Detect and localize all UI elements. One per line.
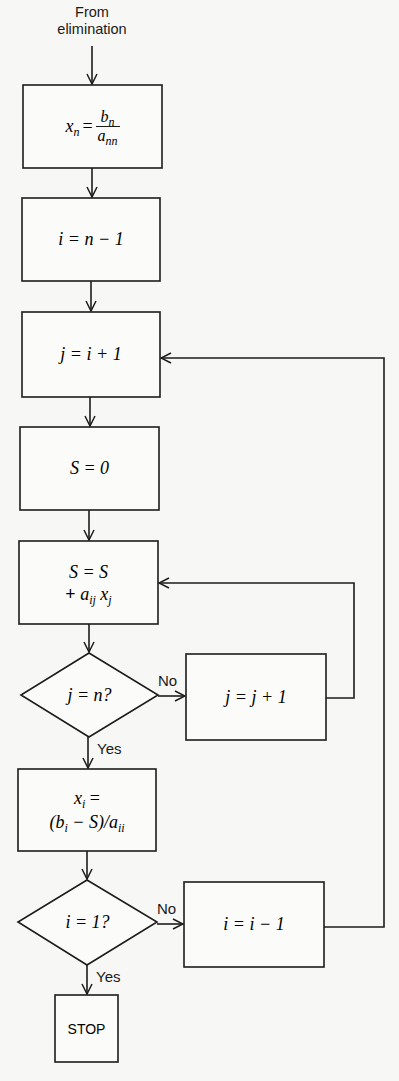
node-stop-label: STOP (55, 995, 118, 1062)
edge-i-dec-to-j-init (161, 358, 384, 927)
node-i-dec-label: i = i − 1 (184, 882, 324, 967)
node-xi-label: xi = (bi − S)/aii (18, 769, 156, 851)
xn-fraction: bn ann (96, 108, 120, 145)
node-s-acc-label: S = S + aij xj (19, 541, 158, 624)
i-check-no-label: No (157, 900, 176, 917)
start-label-line1: From (52, 4, 132, 21)
node-s-init-label: S = 0 (20, 427, 159, 510)
node-xn-label: xn = bn ann (23, 85, 162, 168)
i-check-yes-label: Yes (96, 968, 120, 985)
node-j-check-label: j = n? (21, 653, 158, 737)
xn-eq: = (82, 116, 92, 137)
node-j-inc-label: j = j + 1 (186, 654, 326, 740)
j-check-no-label: No (158, 672, 177, 689)
xn-lhs: xn (65, 116, 79, 137)
start-label: From elimination (52, 4, 132, 38)
node-j-init-label: j = i + 1 (22, 312, 160, 397)
start-label-line2: elimination (52, 21, 132, 38)
node-i-init-label: i = n − 1 (22, 198, 160, 281)
j-check-yes-label: Yes (97, 740, 121, 757)
node-i-check-label: i = 1? (18, 880, 157, 965)
